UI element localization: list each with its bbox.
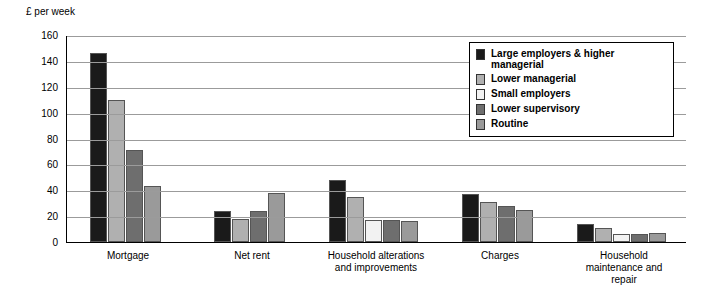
legend-label-3: Lower supervisory (491, 103, 580, 114)
y-tick-label: 100 (30, 108, 58, 119)
x-tick-label-line: maintenance and (542, 262, 706, 274)
bar (250, 211, 267, 242)
gridline (67, 36, 686, 37)
bar (144, 186, 161, 242)
bar (347, 197, 364, 242)
bar (613, 234, 630, 242)
y-tick-label: 140 (30, 56, 58, 67)
legend-label-2: Small employers (491, 88, 570, 99)
gridline (67, 191, 686, 192)
bar (365, 220, 382, 242)
bar (649, 233, 666, 242)
legend-swatch-4 (476, 119, 485, 130)
legend-label-4: Routine (491, 118, 528, 129)
y-axis-title: £ per week (26, 6, 75, 17)
bar (631, 234, 648, 242)
legend-swatch-0 (476, 49, 485, 60)
gridline (67, 140, 686, 141)
bar (90, 53, 107, 242)
bar (383, 220, 400, 242)
x-tick-label: Householdmaintenance andrepair (542, 250, 706, 286)
gridline (67, 217, 686, 218)
legend: Large employers & higher managerial Lowe… (469, 42, 674, 137)
x-tick-label-line: and improvements (294, 262, 458, 274)
bar (214, 211, 231, 242)
legend-swatch-2 (476, 89, 485, 100)
bar (480, 202, 497, 242)
y-tick-label: 80 (30, 134, 58, 145)
bar (401, 221, 418, 242)
bar (577, 224, 594, 242)
legend-label-0: Large employers & higher managerial (491, 48, 667, 70)
gridline (67, 165, 686, 166)
y-tick-label: 60 (30, 159, 58, 170)
bar (232, 219, 249, 242)
legend-item: Routine (476, 118, 667, 130)
x-tick-label-line: Household (542, 250, 706, 262)
y-tick-label: 160 (30, 30, 58, 41)
bar (595, 228, 612, 242)
y-tick-label: 20 (30, 211, 58, 222)
x-tick-label-line: repair (542, 274, 706, 286)
y-tick-label: 0 (30, 237, 58, 248)
bar (516, 210, 533, 242)
legend-swatch-3 (476, 104, 485, 115)
legend-swatch-1 (476, 74, 485, 85)
bar (108, 100, 125, 242)
legend-item: Large employers & higher managerial (476, 48, 667, 70)
legend-item: Lower managerial (476, 73, 667, 85)
y-tick-label: 40 (30, 185, 58, 196)
bar-chart: £ per week 020406080100120140160 Mortgag… (0, 0, 712, 299)
legend-item: Small employers (476, 88, 667, 100)
bar (126, 150, 143, 242)
legend-label-1: Lower managerial (491, 73, 576, 84)
legend-item: Lower supervisory (476, 103, 667, 115)
bar (498, 206, 515, 242)
y-tick-label: 120 (30, 82, 58, 93)
bar (329, 180, 346, 242)
